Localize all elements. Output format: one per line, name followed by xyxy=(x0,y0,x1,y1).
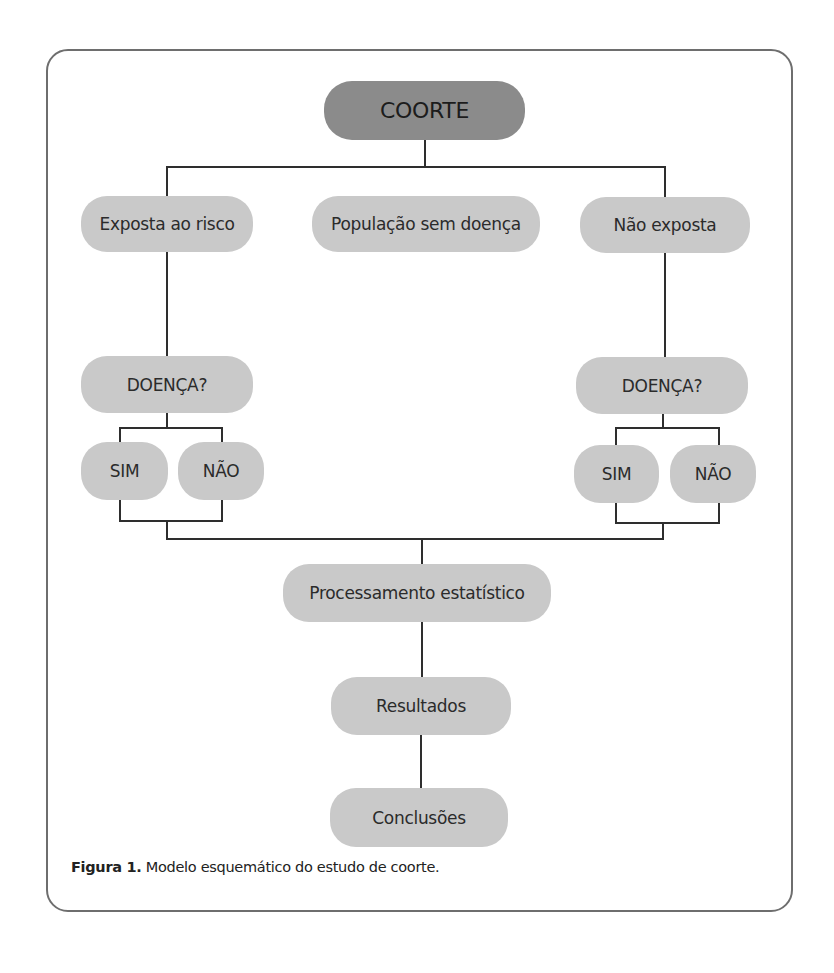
node-exposed: Exposta ao risco xyxy=(81,196,253,252)
connector-left-q-bar xyxy=(119,427,223,429)
node-left-no: NÃO xyxy=(178,442,264,500)
node-left-yes: SIM xyxy=(81,442,168,500)
connector-right-yes-up xyxy=(615,503,617,523)
figure-caption: Figura 1. Modelo esquemático do estudo d… xyxy=(71,859,439,875)
connector-merge-down xyxy=(421,538,423,564)
connector-right-no-drop xyxy=(718,427,720,445)
node-left-disease-question-label: DOENÇA? xyxy=(127,375,207,395)
connector-left-yes-drop xyxy=(119,427,121,442)
connector-right-yes-drop xyxy=(615,427,617,445)
connector-right-no-up xyxy=(718,503,720,523)
connector-right-bottom-bar xyxy=(615,522,720,524)
node-left-disease-question: DOENÇA? xyxy=(81,356,253,413)
connector-right-drop xyxy=(664,166,666,197)
connector-processing-down xyxy=(421,622,423,677)
node-conclusions-label: Conclusões xyxy=(372,808,465,828)
node-right-no: NÃO xyxy=(670,445,756,503)
node-left-yes-label: SIM xyxy=(110,461,140,481)
connector-left-yes-up xyxy=(119,500,121,521)
connector-right-down xyxy=(664,253,666,357)
node-right-no-label: NÃO xyxy=(695,464,732,484)
connector-root-stem xyxy=(424,140,426,167)
node-right-yes-label: SIM xyxy=(602,464,632,484)
connector-left-no-up xyxy=(221,500,223,521)
connector-right-q-bar xyxy=(615,427,720,429)
node-right-yes: SIM xyxy=(574,445,659,503)
connector-left-down xyxy=(166,252,168,356)
node-population-label: População sem doença xyxy=(331,214,521,234)
connector-left-q-stem xyxy=(166,413,168,428)
node-exposed-label: Exposta ao risco xyxy=(99,214,234,234)
connector-results-down xyxy=(420,735,422,788)
node-results-label: Resultados xyxy=(376,696,466,716)
node-not-exposed: Não exposta xyxy=(580,197,750,253)
node-left-no-label: NÃO xyxy=(203,461,240,481)
node-processing: Processamento estatístico xyxy=(283,564,551,622)
node-not-exposed-label: Não exposta xyxy=(614,215,717,235)
connector-right-q-stem xyxy=(662,414,664,428)
figure-caption-text: Modelo esquemático do estudo de coorte. xyxy=(141,859,439,875)
connector-top-bar xyxy=(166,166,666,168)
connector-right-merge-stem xyxy=(662,522,664,539)
node-coorte-label: COORTE xyxy=(380,98,469,123)
node-processing-label: Processamento estatístico xyxy=(309,583,524,603)
connector-left-merge-stem xyxy=(166,520,168,539)
connector-left-bottom-bar xyxy=(119,520,223,522)
node-right-disease-question: DOENÇA? xyxy=(576,357,748,414)
node-right-disease-question-label: DOENÇA? xyxy=(622,376,702,396)
figure-caption-label: Figura 1. xyxy=(71,859,141,875)
connector-left-no-drop xyxy=(221,427,223,442)
connector-left-drop xyxy=(166,166,168,196)
node-conclusions: Conclusões xyxy=(330,788,508,847)
node-results: Resultados xyxy=(331,677,511,735)
connector-merge-bar xyxy=(166,538,664,540)
node-coorte: COORTE xyxy=(324,81,525,140)
node-population: População sem doença xyxy=(312,196,540,252)
